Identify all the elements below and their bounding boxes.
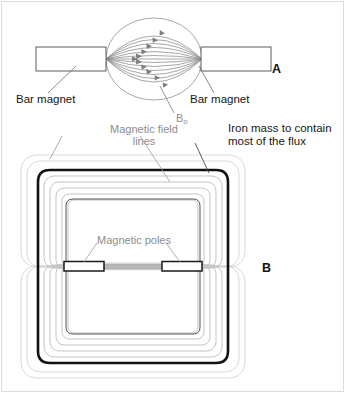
label-magnetic-field-lines: Magnetic fieldlines: [92, 123, 196, 148]
panel-label-b: B: [262, 261, 271, 275]
label-bar-magnet-right: Bar magnet: [190, 93, 249, 106]
label-iron-mass: Iron mass to containmost of the flux: [228, 122, 332, 148]
magnetic-field-lines-line1: Magnetic field: [110, 123, 178, 135]
diagram-canvas: [0, 0, 345, 393]
right-pole-piece: [162, 262, 202, 272]
field-sphere: [106, 18, 202, 100]
magnetic-field-diagram: Bar magnet Bar magnet Bo A Magnetic fiel…: [0, 0, 345, 393]
magnetic-field-lines-line2: lines: [133, 135, 156, 147]
panel-label-a: A: [272, 62, 281, 76]
label-bar-magnet-left: Bar magnet: [16, 93, 75, 106]
iron-mass-line2: most of the flux: [228, 135, 306, 147]
left-bar-magnet: [36, 47, 106, 71]
iron-mass-line1: Iron mass to contain: [228, 122, 332, 134]
left-pole-piece: [64, 262, 104, 272]
right-bar-magnet: [201, 47, 271, 71]
label-magnetic-poles: Magnetic poles: [97, 234, 171, 246]
